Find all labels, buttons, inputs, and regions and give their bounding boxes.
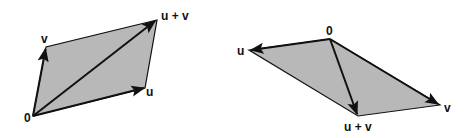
right-parallelogram-figure: 0 u v u + v: [237, 24, 451, 134]
left-label-u: u: [146, 85, 153, 99]
left-parallelogram-figure: 0 u v u + v: [24, 9, 189, 125]
vector-diagram: 0 u v u + v 0 u v u + v: [0, 0, 474, 138]
right-label-origin: 0: [326, 24, 333, 38]
right-label-v: v: [444, 101, 451, 115]
left-label-sum: u + v: [161, 9, 189, 23]
right-label-sum: u + v: [344, 120, 372, 134]
left-label-origin: 0: [24, 111, 31, 125]
left-label-v: v: [41, 32, 48, 46]
right-label-u: u: [237, 44, 244, 58]
